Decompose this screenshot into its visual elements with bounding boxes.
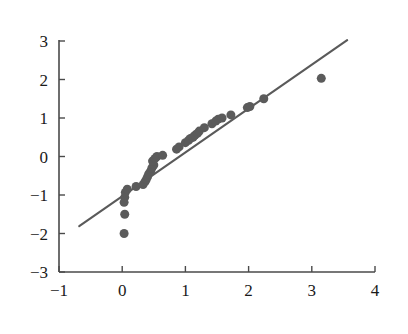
plot-canvas: −3−2−10123−101234 (0, 0, 408, 334)
data-point (123, 185, 132, 194)
x-tick-label: 3 (308, 281, 317, 300)
data-point (120, 210, 129, 219)
data-point (226, 110, 235, 119)
data-point (317, 74, 326, 83)
y-tick-label: −2 (30, 225, 48, 244)
scatter-plot-figure: −3−2−10123−101234 (0, 0, 408, 334)
x-tick-label: 1 (181, 281, 190, 300)
y-tick-label: −3 (30, 263, 48, 282)
data-point (158, 151, 167, 160)
y-tick-label: 2 (40, 71, 49, 90)
data-point (120, 229, 129, 238)
x-tick-label: −1 (50, 281, 68, 300)
data-point (218, 114, 227, 123)
x-tick-label: 2 (244, 281, 253, 300)
y-tick-label: 0 (40, 148, 49, 167)
y-tick-label: 1 (40, 109, 49, 128)
data-point (259, 94, 268, 103)
reference-line (79, 40, 347, 226)
x-tick-label: 4 (371, 281, 380, 300)
y-tick-label: 3 (40, 32, 49, 51)
x-tick-label: 0 (118, 281, 127, 300)
data-point (245, 102, 254, 111)
y-tick-label: −1 (30, 186, 48, 205)
